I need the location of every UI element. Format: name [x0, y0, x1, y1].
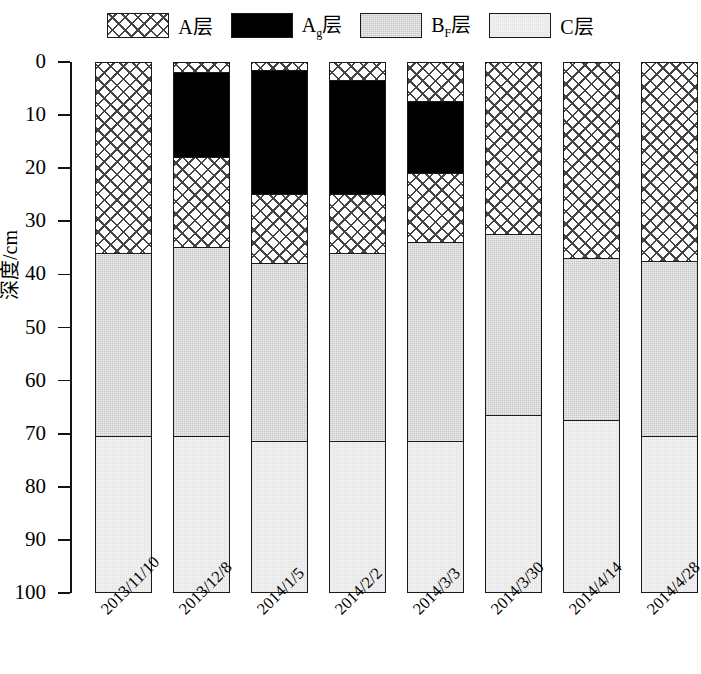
bar-segment-A [408, 173, 463, 243]
soil-profile-chart: A层Ag层BF层C层 深度/cm 0102030405060708090100 … [0, 0, 701, 674]
legend-label-A: A层 [178, 11, 212, 40]
bar-segment-A [330, 194, 385, 254]
bar-segment-Ag [330, 80, 385, 196]
y-tick [58, 380, 70, 382]
bar-segment-A [564, 63, 619, 259]
y-tick [58, 220, 70, 222]
bar-segment-A [408, 63, 463, 103]
y-tick [58, 61, 70, 63]
y-tick-label: 10 [0, 104, 46, 125]
bar-segment-A [642, 63, 697, 262]
bar-segment-A [174, 157, 229, 249]
y-tick [58, 114, 70, 116]
y-tick-label: 0 [0, 51, 46, 72]
y-tick [58, 433, 70, 435]
y-tick-label: 20 [0, 157, 46, 178]
chart-legend: A层Ag层BF层C层 [0, 8, 701, 42]
bar-column[interactable] [641, 62, 698, 593]
legend-swatch-C-icon [489, 13, 551, 38]
bar-segment-BF [486, 234, 541, 416]
bar-segment-A [252, 194, 307, 264]
y-tick-label: 70 [0, 423, 46, 444]
bar-segment-BF [252, 263, 307, 442]
y-tick-label: 30 [0, 210, 46, 231]
bar-segment-A [330, 63, 385, 82]
bar-segment-BF [408, 242, 463, 443]
bar-segment-BF [564, 258, 619, 421]
bar-segment-BF [330, 253, 385, 443]
bar-column[interactable] [173, 62, 230, 593]
y-tick-label: 50 [0, 317, 46, 338]
bar-column[interactable] [251, 62, 308, 593]
legend-swatch-A-icon [107, 13, 169, 38]
bar-column[interactable] [329, 62, 386, 593]
y-tick [58, 592, 70, 594]
y-tick-label: 100 [0, 582, 46, 603]
bar-segment-BF [96, 253, 151, 438]
legend-entry-A: A层 [107, 11, 212, 40]
bar-segment-Ag [408, 101, 463, 174]
legend-entry-BF: BF层 [360, 9, 471, 41]
bar-segment-A [96, 63, 151, 254]
bar-column[interactable] [485, 62, 542, 593]
plot-area [95, 62, 701, 593]
legend-swatch-Ag-icon [231, 13, 293, 38]
legend-label-C: C层 [560, 11, 593, 40]
bar-column[interactable] [407, 62, 464, 593]
bar-segment-Ag [174, 72, 229, 158]
bar-segment-BF [174, 247, 229, 437]
legend-entry-Ag: Ag层 [231, 9, 342, 41]
bar-column[interactable] [95, 62, 152, 593]
y-tick-label: 90 [0, 529, 46, 550]
bar-segment-A [486, 63, 541, 236]
legend-label-Ag: Ag层 [302, 9, 342, 41]
y-tick-label: 40 [0, 263, 46, 284]
bar-column[interactable] [563, 62, 620, 593]
legend-swatch-BF-icon [360, 13, 422, 38]
y-axis-line [70, 62, 72, 593]
legend-entry-C: C层 [489, 11, 593, 40]
y-tick [58, 167, 70, 169]
y-tick [58, 327, 70, 329]
y-tick-label: 60 [0, 370, 46, 391]
y-tick-label: 80 [0, 476, 46, 497]
y-tick [58, 486, 70, 488]
bar-segment-BF [642, 261, 697, 438]
y-tick [58, 274, 70, 276]
y-tick [58, 539, 70, 541]
legend-label-BF: BF层 [431, 9, 471, 41]
bar-segment-Ag [252, 70, 307, 196]
